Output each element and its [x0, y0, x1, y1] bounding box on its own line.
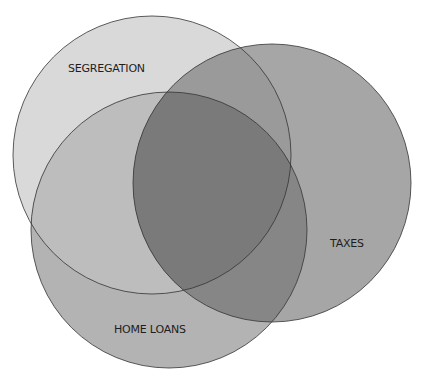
home-loans-label: HOME LOANS: [114, 323, 186, 336]
segregation-label: SEGREGATION: [68, 62, 145, 75]
venn-diagram: [0, 0, 423, 382]
taxes-label: TAXES: [330, 237, 364, 250]
